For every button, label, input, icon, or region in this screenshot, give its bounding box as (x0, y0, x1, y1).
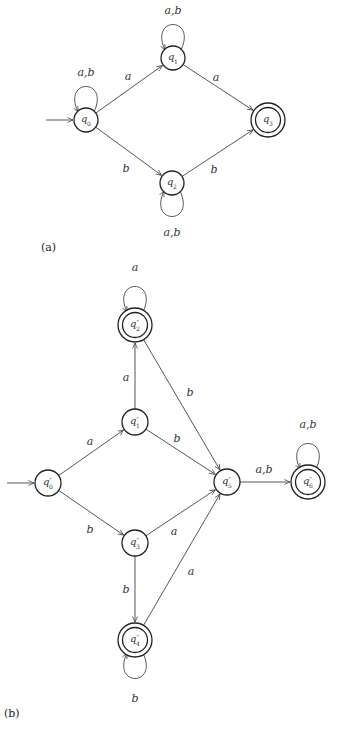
transition-label: a (87, 435, 94, 448)
state-node: q′2 (118, 308, 152, 342)
transition-label: a (132, 261, 139, 274)
state-subscript: 1 (136, 422, 140, 429)
transition-label: b (210, 163, 217, 176)
transition-label: a,b (255, 463, 272, 476)
transition-label: a,b (163, 226, 180, 239)
state-subscript: 4 (136, 640, 140, 647)
state-subscript: 5 (228, 482, 232, 489)
transition-label: b (186, 386, 193, 399)
state-node: q′3 (122, 530, 148, 556)
state-subscript: 3 (136, 543, 140, 550)
state-node: q′5 (214, 469, 240, 495)
state-node: q′0 (35, 470, 61, 496)
transition-label: a (125, 70, 132, 83)
state-node: q′4 (118, 623, 152, 657)
state-subscript: 1 (174, 58, 178, 65)
diagram-caption: (b) (4, 707, 20, 720)
transition-label: a (171, 525, 178, 538)
transition-label: b (131, 692, 138, 705)
state-subscript: 3 (269, 120, 273, 127)
state-subscript: 0 (87, 120, 91, 127)
transition-label: b (86, 523, 93, 536)
transition-label: a (188, 565, 195, 578)
transition-arrow (144, 340, 220, 470)
state-subscript: 2 (136, 325, 140, 332)
transition-arrow (146, 429, 215, 474)
transition-label: a,b (77, 66, 94, 79)
state-node: q0 (74, 108, 98, 132)
transition-arrow (144, 494, 220, 625)
transition-label: a,b (299, 418, 316, 431)
state-node: q2 (160, 171, 184, 195)
state-subscript: 0 (49, 483, 53, 490)
state-node: q3 (251, 103, 285, 137)
state-node: q′6 (291, 465, 325, 499)
state-node: q′1 (122, 409, 148, 435)
state-node: q1 (161, 46, 185, 70)
states-layer: q0q1q2q3q′0q′1q′2q′3q′4q′5q′6 (35, 46, 325, 657)
state-subscript: 2 (173, 183, 177, 190)
transition-label: b (173, 432, 180, 445)
transition-label: a (123, 371, 130, 384)
transition-arrow (146, 490, 215, 536)
diagram-caption: (a) (41, 241, 56, 254)
automata-diagram: q0q1q2q3q′0q′1q′2q′3q′4q′5q′6 a,baba,baa… (0, 0, 337, 731)
transition-label: b (122, 583, 129, 596)
state-subscript: 6 (309, 482, 313, 489)
transition-label: a,b (164, 4, 181, 17)
transition-label: a (213, 71, 220, 84)
transition-label: b (122, 162, 129, 175)
